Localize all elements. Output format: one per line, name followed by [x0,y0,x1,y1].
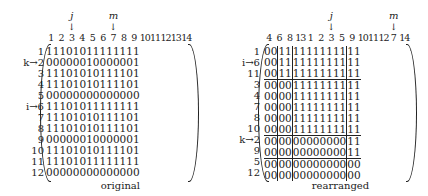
column-header: 3 [326,32,336,43]
down-arrow-icon: ↓ [107,22,119,32]
matrix-cell: 1 [306,68,313,80]
matrix-cell: 0 [66,167,73,178]
row-label: i→6 [220,57,260,68]
matrix-cell: 1 [285,68,292,80]
matrix-cell: 0 [292,147,299,159]
column-header: 1 [306,32,316,43]
row-label: 8 [220,112,260,123]
matrix-cell: 0 [278,170,285,181]
matrix-cell: 0 [46,167,53,178]
column-header: 4 [77,32,87,43]
column-header: 5 [88,32,98,43]
column-pointer-label: j [66,10,78,21]
matrix-cell: 0 [264,124,271,136]
matrix-cell: 1 [278,68,285,80]
column-header: 9 [347,32,357,43]
binary-matrix: 0011111111111100111111111111001111111111… [264,46,361,181]
matrix-cell: 0 [333,147,340,159]
column-header: 6 [98,32,108,43]
matrix-cell: 0 [285,147,292,159]
matrix-cell: 1 [347,124,354,136]
matrix-cell: 0 [271,147,278,159]
matrix-cell: 0 [264,170,271,181]
column-headers: 4681312359101112714 [264,32,409,43]
row-label: 5 [220,156,260,167]
matrix-cell: 1 [292,68,299,80]
row-label: 4 [4,79,44,90]
row-labels: 1i→611347810k→29512 [220,46,260,178]
column-header: 1 [46,32,56,43]
matrix-cell: 1 [306,124,313,136]
matrix-cell: 1 [340,124,347,136]
matrix-cell: 0 [133,167,140,178]
matrix-caption: rearranged [312,180,369,191]
matrix-row: 00001111111111 [264,124,361,136]
matrix-cell: 0 [106,167,113,178]
down-arrow-icon: ↓ [66,22,78,32]
matrix-cell: 1 [354,68,361,80]
matrix-cell: 0 [73,167,80,178]
matrix-cell: 0 [126,167,133,178]
row-label: 7 [4,112,44,123]
row-label: 5 [4,90,44,101]
matrix-cell: 1 [313,68,320,80]
column-header: 14 [399,32,409,43]
column-header: 3 [67,32,77,43]
row-label: i→6 [4,101,44,112]
row-label: 1 [4,46,44,57]
row-label: 11 [4,156,44,167]
row-label: 12 [4,167,44,178]
matrix-cell: 0 [264,68,271,80]
matrix-cell: 0 [79,167,86,178]
row-label: 8 [4,123,44,134]
matrix-cell: 1 [347,147,354,159]
column-header: 14 [181,32,191,43]
matrix-cell: 0 [306,147,313,159]
row-label: 10 [4,145,44,156]
matrix-row: 00111111111111 [264,68,361,80]
matrix-cell: 0 [320,147,327,159]
matrix-cell: 1 [299,68,306,80]
matrix-cell: 1 [354,124,361,136]
row-labels: 1k→2345i→6789101112 [4,46,44,178]
column-header: 7 [389,32,399,43]
matrix-caption: original [101,180,140,191]
row-label: 9 [220,145,260,156]
column-header: 8 [285,32,295,43]
column-pointer-label: j [325,10,337,21]
column-header: 5 [337,32,347,43]
binary-matrix: 1110101111111100000010000001111010101111… [46,46,140,178]
right-parenthesis [406,44,417,182]
matrix-cell: 1 [333,68,340,80]
matrix-cell: 1 [354,147,361,159]
row-label: 3 [4,68,44,79]
row-label: k→2 [4,57,44,68]
row-label: 4 [220,90,260,101]
row-label: 1 [220,46,260,57]
matrix-cell: 0 [100,167,107,178]
matrix-cell: 1 [340,68,347,80]
matrix-cell: 0 [93,167,100,178]
column-header: 9 [129,32,139,43]
matrix-cell: 0 [299,170,306,181]
matrix-cell: 0 [53,167,60,178]
column-header: 2 [56,32,66,43]
matrix-cell: 0 [285,124,292,136]
column-header: 6 [274,32,284,43]
column-header: 2 [316,32,326,43]
matrix-cell: 0 [271,124,278,136]
row-label: 12 [220,167,260,178]
column-header: 7 [108,32,118,43]
matrix-cell: 1 [326,124,333,136]
row-label: 10 [220,123,260,134]
matrix-cell: 0 [113,167,120,178]
matrix-cell: 0 [59,167,66,178]
matrix-cell: 0 [271,170,278,181]
matrix-cell: 0 [285,170,292,181]
matrix-cell: 1 [320,68,327,80]
matrix-cell: 1 [347,68,354,80]
matrix-cell: 0 [264,147,271,159]
matrix-cell: 1 [313,124,320,136]
matrix-cell: 0 [313,147,320,159]
column-headers: 1234567891011121314 [46,32,191,43]
